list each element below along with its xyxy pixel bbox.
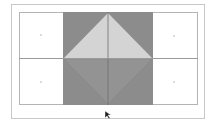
horizontal-divider	[19, 58, 198, 59]
cell-dot-right-bottom	[173, 81, 175, 83]
diagram-canvas	[0, 0, 213, 128]
cell-dot-right-top	[173, 35, 175, 37]
mouse-pointer-icon	[105, 105, 111, 113]
cell-dot-left-top	[40, 34, 42, 36]
cell-dot-left-bottom	[40, 81, 42, 83]
